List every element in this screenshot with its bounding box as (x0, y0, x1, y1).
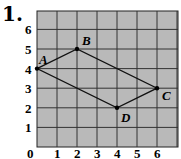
point-label-c: C (162, 88, 171, 103)
x-tick: 6 (154, 146, 161, 159)
x-axis-ticks: 0123456 (27, 146, 161, 159)
x-tick: 2 (74, 146, 81, 159)
point-label-a: A (38, 52, 48, 67)
y-tick: 3 (25, 81, 32, 96)
point-label-b: B (81, 33, 91, 48)
y-tick: 6 (25, 22, 32, 37)
x-tick: 3 (94, 146, 101, 159)
coordinate-grid: ABCD 0123456 123456 (0, 0, 181, 159)
x-tick: 4 (114, 146, 121, 159)
y-tick: 4 (25, 62, 32, 77)
point-a (35, 66, 39, 70)
x-tick: 1 (54, 146, 61, 159)
point-d (115, 106, 119, 110)
x-tick: 5 (134, 146, 141, 159)
y-axis-ticks: 123456 (25, 22, 32, 135)
x-tick: 0 (27, 146, 34, 159)
point-label-d: D (120, 110, 131, 125)
point-c (155, 86, 159, 90)
y-tick: 1 (25, 120, 32, 135)
y-tick: 2 (25, 101, 32, 116)
point-b (75, 47, 79, 51)
y-tick: 5 (25, 42, 32, 57)
